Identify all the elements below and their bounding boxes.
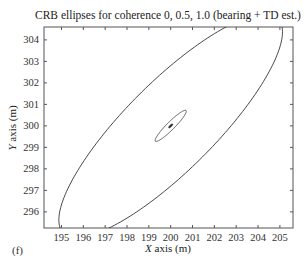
chart-title: CRB ellipses for coherence 0, 0.5, 1.0 (…	[35, 9, 301, 22]
x-tick-label: 198	[119, 232, 135, 243]
y-tick-label: 300	[23, 120, 39, 131]
x-tick-label: 197	[97, 232, 113, 243]
y-ticks: 296297298299300301302303304	[23, 34, 293, 217]
y-tick-label: 301	[23, 99, 39, 110]
x-axis-label-unit: axis (m)	[152, 242, 191, 255]
y-tick-label: 297	[23, 185, 39, 196]
x-tick-label: 195	[54, 232, 70, 243]
chart: CRB ellipses for coherence 0, 0.5, 1.0 (…	[0, 0, 305, 267]
y-tick-label: 296	[23, 206, 39, 217]
x-tick-label: 204	[250, 232, 267, 243]
ellipses	[59, 14, 283, 237]
y-tick-label: 302	[23, 77, 39, 88]
x-tick-label: 196	[75, 232, 91, 243]
ellipse-coherence-1	[169, 124, 173, 128]
y-tick-label: 298	[23, 163, 39, 174]
panel-label: (f)	[12, 244, 23, 257]
y-axis-label: Y axis (m)	[6, 105, 19, 151]
x-tick-label: 202	[206, 232, 222, 243]
y-axis-label-unit: axis (m)	[6, 105, 19, 144]
x-tick-label: 203	[228, 232, 244, 243]
x-ticks: 195196197198199200201202203204205	[54, 27, 288, 243]
y-tick-label: 299	[23, 142, 39, 153]
x-axis-label: X axis (m)	[144, 242, 191, 255]
x-tick-label: 205	[272, 232, 288, 243]
y-tick-label: 304	[23, 34, 40, 45]
y-tick-label: 303	[23, 56, 39, 67]
